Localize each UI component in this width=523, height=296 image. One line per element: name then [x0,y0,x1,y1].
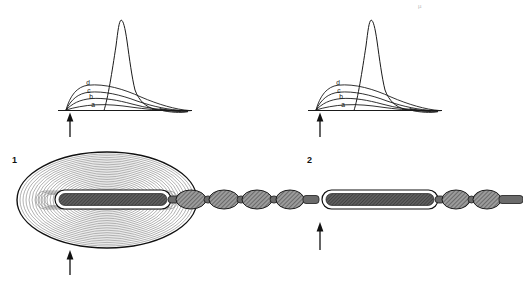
profile-2-label-b: b [339,93,343,100]
diagram-canvas: µ a b c d [0,0,523,296]
profile-1-tall-peak [104,20,191,111]
profile-1-curve-c [66,92,183,111]
panel-1-number-label: 1 [12,155,17,165]
structure-2-rod-core [326,194,434,206]
structure-1-bead-chain [168,190,319,209]
figure-root: µ a b c d [0,0,523,296]
panel-1-structure: 1 [12,152,319,275]
structure-1-rod-core [59,194,167,206]
panel-2-number-label: 2 [307,155,312,165]
panel-2-structure: 2 [307,155,523,250]
profile-1-label-b: b [89,93,93,100]
corner-mark: µ [418,3,422,9]
profile-2-tall-peak [354,20,441,111]
panel-2-lower-arrow [317,222,324,250]
panel-2-upper-arrow [317,113,324,138]
panel-1-lower-arrow [67,250,74,275]
profile-1-label-a: a [91,101,95,108]
panel-2-profile-chart: a b c d [308,20,442,137]
profile-2-label-a: a [341,101,345,108]
profile-2-label-d: d [336,79,340,86]
structure-2-bead-chain [435,190,523,209]
profile-1-label-d: d [86,79,90,86]
panel-1-profile-chart: a b c d [58,20,192,137]
panel-1-upper-arrow [67,113,74,138]
profile-2-curve-c [316,92,433,111]
